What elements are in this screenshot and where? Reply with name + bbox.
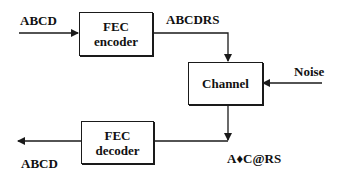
decoder-title: FEC <box>105 128 131 143</box>
received-data-label: A♦C@RS <box>227 151 281 167</box>
encoder-title: FEC <box>103 19 129 34</box>
encoder-subtitle: encoder <box>94 34 138 49</box>
noise-label: Noise <box>294 64 324 80</box>
fec-encoder-block: FEC encoder <box>79 12 153 56</box>
output-data-label: ABCD <box>21 156 58 172</box>
channel-block: Channel <box>188 62 263 105</box>
input-data-label: ABCD <box>20 13 57 29</box>
arrow-encoder-to-channel <box>153 33 228 61</box>
decoder-subtitle: decoder <box>95 143 139 158</box>
encoded-data-label: ABCDRS <box>166 12 219 28</box>
fec-block-diagram: FEC encoder Channel FEC decoder ABCD ABC… <box>0 0 342 178</box>
fec-decoder-block: FEC decoder <box>81 121 154 164</box>
channel-title: Channel <box>202 76 249 91</box>
